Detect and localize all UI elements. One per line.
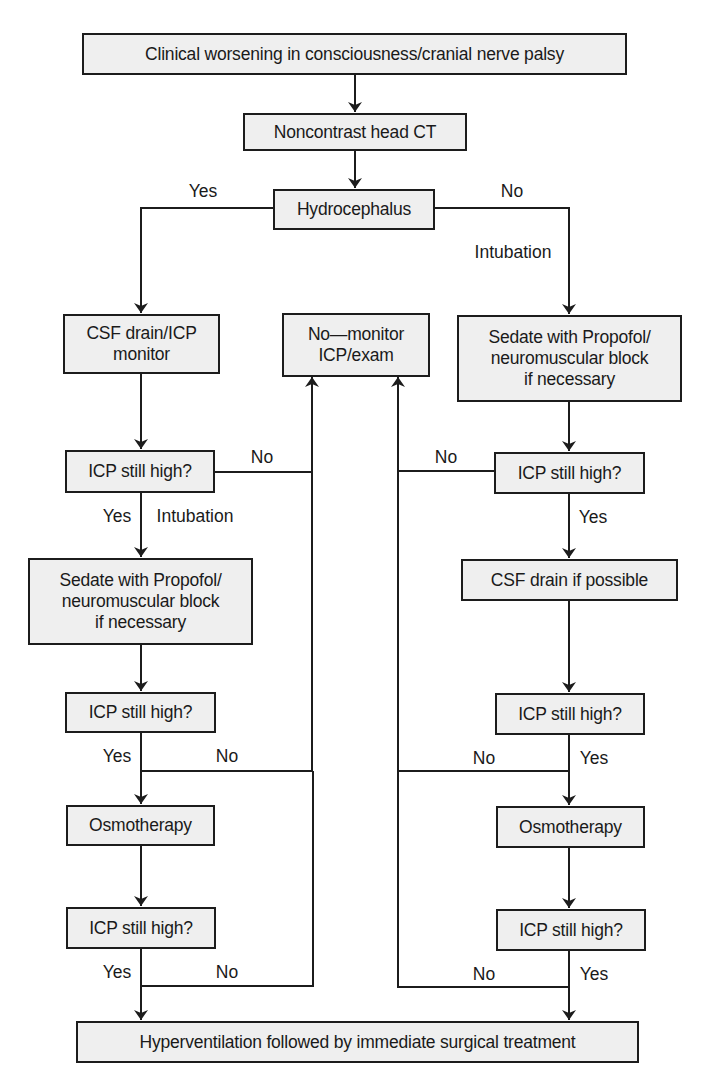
node-label: Clinical worsening in consciousness/cran… — [145, 44, 564, 65]
node-no-monitor-icp-exam: No—monitor ICP/exam — [282, 313, 430, 377]
node-label: Hyperventilation followed by immediate s… — [139, 1032, 575, 1053]
node-hyperventilation-surgery: Hyperventilation followed by immediate s… — [76, 1021, 639, 1063]
node-label: Sedate with Propofol/ neuromuscular bloc… — [488, 327, 650, 390]
node-hydrocephalus: Hydrocephalus — [273, 189, 435, 230]
node-label: ICP still high? — [88, 461, 192, 482]
node-label: CSF drain if possible — [491, 570, 648, 591]
icp-management-flowchart: Clinical worsening in consciousness/cran… — [0, 0, 711, 1075]
node-right-icp-check-2: ICP still high? — [495, 693, 645, 735]
label-left-icp2-no: No — [216, 746, 238, 766]
node-label: Noncontrast head CT — [274, 122, 437, 143]
node-label: ICP still high? — [519, 920, 623, 941]
label-left-intubation: Intubation — [157, 506, 234, 526]
label-right-icp2-yes: Yes — [580, 748, 609, 768]
node-left-icp-check-3: ICP still high? — [66, 907, 216, 949]
label-right-icp1-yes: Yes — [579, 507, 608, 527]
label-hydro-no: No — [501, 181, 523, 201]
node-label: Hydrocephalus — [297, 199, 411, 220]
node-label: ICP still high? — [89, 918, 193, 939]
label-left-icp3-yes: Yes — [103, 962, 132, 982]
label-left-icp2-yes: Yes — [103, 746, 132, 766]
node-right-icp-check-3: ICP still high? — [496, 909, 646, 951]
node-noncontrast-ct: Noncontrast head CT — [243, 113, 467, 151]
label-hydro-yes: Yes — [189, 181, 218, 201]
node-label: Sedate with Propofol/ neuromuscular bloc… — [59, 570, 221, 633]
label-right-intubation: Intubation — [475, 242, 552, 262]
node-label: ICP still high? — [518, 463, 622, 484]
label-left-icp3-no: No — [216, 962, 238, 982]
node-label: ICP still high? — [89, 702, 193, 723]
node-label: CSF drain/ICP monitor — [86, 323, 196, 365]
node-left-icp-check-1: ICP still high? — [65, 450, 215, 493]
node-label: No—monitor ICP/exam — [308, 324, 404, 366]
label-right-icp3-no: No — [473, 964, 495, 984]
label-right-icp1-no: No — [435, 447, 457, 467]
label-right-icp3-yes: Yes — [580, 964, 609, 984]
node-label: Osmotherapy — [519, 817, 622, 838]
node-right-csf-drain-if-possible: CSF drain if possible — [461, 559, 678, 601]
node-left-csf-drain-icp-monitor: CSF drain/ICP monitor — [63, 314, 220, 374]
node-label: Osmotherapy — [89, 815, 192, 836]
node-right-osmotherapy: Osmotherapy — [496, 806, 645, 848]
node-left-osmotherapy: Osmotherapy — [66, 805, 215, 846]
node-left-icp-check-2: ICP still high? — [65, 692, 216, 733]
node-left-sedate-propofol: Sedate with Propofol/ neuromuscular bloc… — [28, 558, 253, 645]
label-left-icp1-yes: Yes — [103, 506, 132, 526]
node-right-sedate-propofol: Sedate with Propofol/ neuromuscular bloc… — [457, 315, 682, 402]
node-right-icp-check-1: ICP still high? — [494, 452, 645, 494]
label-right-icp2-no: No — [473, 748, 495, 768]
label-left-icp1-no: No — [251, 447, 273, 467]
node-label: ICP still high? — [518, 704, 622, 725]
node-clinical-worsening: Clinical worsening in consciousness/cran… — [82, 33, 627, 75]
